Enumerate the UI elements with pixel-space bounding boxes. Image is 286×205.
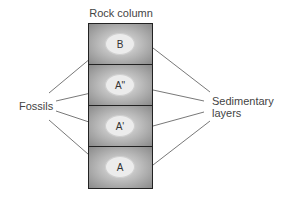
fossil: A" xyxy=(105,74,135,96)
fossil: A xyxy=(105,156,135,178)
sedimentary-layer: A" xyxy=(89,65,152,106)
sedimentary-layer: A xyxy=(89,147,152,188)
fossils-label: Fossils xyxy=(19,100,53,112)
fossil: B xyxy=(105,33,135,55)
sedimentary-layer: B xyxy=(89,24,152,65)
fossil: A' xyxy=(105,115,135,137)
rock-column: B A" A' A xyxy=(88,23,153,189)
sedimentary-layer: A' xyxy=(89,106,152,147)
sedimentary-label-line2: layers xyxy=(212,107,241,119)
sedimentary-label-line1: Sedimentary xyxy=(212,95,274,107)
